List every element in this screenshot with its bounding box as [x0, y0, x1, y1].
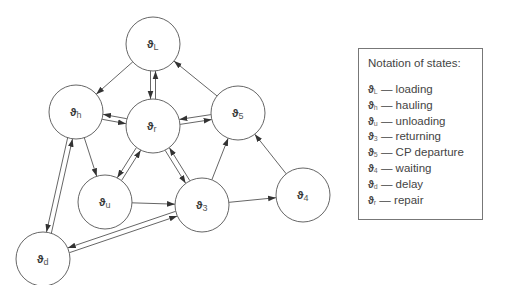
legend-title: Notation of states:	[368, 57, 482, 69]
edge-r-5-backward-arrow	[179, 115, 211, 120]
state-description: — unloading	[378, 115, 446, 127]
state-node-L: ϑL	[126, 17, 180, 71]
legend-item-u: ϑu — unloading	[368, 115, 482, 131]
legend-items: ϑL — loadingϑh — haulingϑu — unloadingϑ3…	[368, 83, 482, 209]
edge-h-r-backward-arrow	[103, 114, 127, 118]
state-node-4: ϑ4	[276, 168, 330, 222]
state-description: — hauling	[378, 99, 433, 111]
legend-item-5: ϑ5 — CP departure	[368, 146, 482, 162]
state-nodes: ϑLϑhϑrϑ5ϑuϑ3ϑ4ϑd	[16, 17, 330, 285]
edge-L-h-arrow	[96, 62, 133, 94]
notation-legend: Notation of states: ϑL — loadingϑh — hau…	[358, 48, 483, 220]
edge-h-d-forward-arrow	[46, 138, 67, 232]
legend-item-d: ϑd — delay	[368, 178, 482, 194]
state-description: — delay	[378, 178, 423, 190]
legend-item-r: ϑr — repair	[368, 194, 482, 210]
edge-h-u-arrow	[84, 138, 96, 177]
legend-item-4: ϑ4 — waiting	[368, 162, 482, 178]
state-description: — returning	[378, 130, 441, 142]
edge-5-L-arrow	[174, 61, 217, 96]
edge-r-3-backward-arrow	[169, 148, 190, 181]
state-description: — loading	[378, 83, 433, 95]
edge-r-3-forward-arrow	[165, 150, 186, 183]
edge-h-r-forward-arrow	[102, 119, 126, 123]
edge-3-5-arrow	[212, 138, 228, 180]
state-node-r: ϑr	[126, 99, 180, 153]
state-node-d: ϑd	[16, 232, 70, 285]
edge-r-5-forward-arrow	[180, 120, 212, 125]
state-description: — repair	[376, 194, 423, 206]
legend-item-h: ϑh — hauling	[368, 99, 482, 115]
edge-r-u-forward-arrow	[117, 147, 136, 177]
edge-3-4-arrow	[229, 198, 276, 203]
state-description: — CP departure	[378, 146, 464, 158]
edge-h-d-backward-arrow	[51, 139, 72, 233]
state-node-5: ϑ5	[211, 86, 265, 140]
edge-u-3-arrow	[132, 203, 175, 204]
edge-r-u-backward-arrow	[122, 150, 141, 180]
legend-item-L: ϑL — loading	[368, 83, 482, 99]
state-node-h: ϑh	[49, 85, 103, 139]
state-description: — waiting	[378, 162, 432, 174]
edge-4-5-arrow	[255, 134, 286, 174]
state-node-u: ϑu	[78, 175, 132, 229]
legend-item-3: ϑ3 — returning	[368, 130, 482, 146]
state-node-3: ϑ3	[175, 178, 229, 232]
